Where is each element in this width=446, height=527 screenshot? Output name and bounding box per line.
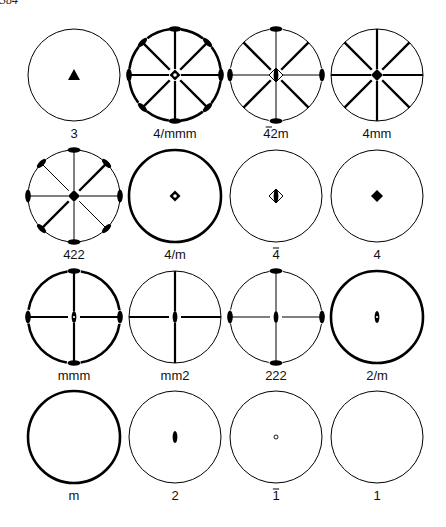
twofold-axis-end-icon xyxy=(169,26,182,32)
inversion-center-icon xyxy=(376,316,378,318)
point-group-label: 422 xyxy=(63,247,85,262)
twofold-axis-end-icon xyxy=(227,69,233,82)
primitive-circle xyxy=(28,391,120,483)
stereogram-4-m: 4/m xyxy=(129,150,221,262)
twofold-axis-end-icon xyxy=(169,118,182,124)
point-group-label: 1 xyxy=(373,488,380,503)
inversion-center-icon xyxy=(274,435,278,439)
diagonal-line xyxy=(79,163,106,190)
twofold-axis-end-icon xyxy=(68,360,81,366)
stereogram-42m: 42m xyxy=(227,26,325,141)
diagonal-line xyxy=(41,163,68,190)
stereogram-222: 222 xyxy=(227,268,325,383)
twofold-axis-icon xyxy=(173,311,178,323)
diagonal-line xyxy=(243,80,270,107)
twofold-axis-end-icon xyxy=(270,360,283,366)
diagonal-line xyxy=(243,42,270,69)
point-group-label: mmm xyxy=(58,368,91,383)
diagonal-line xyxy=(382,42,409,69)
stereogram-2-m: 2/m xyxy=(331,271,423,383)
point-group-label: mm2 xyxy=(161,368,190,383)
twofold-axis-end-icon xyxy=(319,311,325,324)
diagonal-line xyxy=(344,80,371,107)
stereogram-4: 4 xyxy=(230,150,322,262)
twofold-axis-end-icon xyxy=(117,190,123,203)
stereogram-mm2: mm2 xyxy=(129,271,221,383)
twofold-axis-end-icon xyxy=(270,118,283,124)
stereogram-mmm: mmm xyxy=(25,268,123,383)
stereogram-4: 4 xyxy=(331,150,423,262)
twofold-axis-end-icon xyxy=(126,69,132,82)
point-group-label: m xyxy=(69,488,80,503)
stereogram-4mm: 4mm xyxy=(331,29,423,141)
point-group-label: 222 xyxy=(265,368,287,383)
point-group-label: 3 xyxy=(70,126,77,141)
twofold-axis-end-icon xyxy=(25,311,31,324)
twofold-axis-end-icon xyxy=(68,239,81,245)
point-group-label: 1 xyxy=(272,488,279,503)
fourfold-axis-icon xyxy=(371,69,383,81)
twofold-axis-end-icon xyxy=(117,311,123,324)
twofold-axis-icon xyxy=(173,431,178,443)
point-group-label: 2/m xyxy=(366,368,388,383)
inversion-center-icon xyxy=(173,194,177,198)
diagonal-line xyxy=(79,201,106,228)
diagonal-line xyxy=(180,42,207,69)
fourfold-axis-icon xyxy=(371,190,383,202)
stereogram-m: m xyxy=(28,391,120,503)
diagonal-line xyxy=(281,80,308,107)
twofold-axis-end-icon xyxy=(68,268,81,274)
stereogram-4-mmm: 4/mmm xyxy=(126,26,224,141)
threefold-axis-icon xyxy=(68,69,80,80)
twofold-inner-icon xyxy=(274,189,279,203)
twofold-axis-end-icon xyxy=(270,26,283,32)
fourfold-axis-icon xyxy=(68,190,80,202)
point-group-label: 4 xyxy=(373,247,380,262)
point-group-label: 4/m xyxy=(164,247,186,262)
inversion-center-icon xyxy=(73,316,75,318)
stereogram-1: 1 xyxy=(331,391,423,503)
twofold-axis-icon xyxy=(274,311,279,323)
stereogram-2: 2 xyxy=(129,391,221,503)
twofold-axis-end-icon xyxy=(319,69,325,82)
diagonal-line xyxy=(142,42,169,69)
point-group-stereograms: 34/mmm42m4mm4224/m44mmmmm22222/mm211 xyxy=(0,0,446,527)
stereogram-422: 422 xyxy=(25,147,123,262)
twofold-inner-icon xyxy=(274,68,279,82)
twofold-axis-end-icon xyxy=(68,147,81,153)
diagonal-line xyxy=(382,80,409,107)
diagonal-line xyxy=(180,80,207,107)
twofold-axis-end-icon xyxy=(270,268,283,274)
twofold-axis-end-icon xyxy=(227,311,233,324)
point-group-label: 4mm xyxy=(363,126,392,141)
stereogram-3: 3 xyxy=(28,29,120,141)
diagonal-line xyxy=(344,42,371,69)
stereogram-1: 1 xyxy=(230,391,322,503)
twofold-axis-end-icon xyxy=(218,69,224,82)
diagonal-line xyxy=(142,80,169,107)
point-group-label: 4/mmm xyxy=(153,126,196,141)
diagonal-line xyxy=(281,42,308,69)
inversion-center-icon xyxy=(173,73,177,77)
point-group-label: 2 xyxy=(171,488,178,503)
point-group-label: 42m xyxy=(263,126,288,141)
point-group-label: 4 xyxy=(272,247,279,262)
diagonal-line xyxy=(41,201,68,228)
primitive-circle xyxy=(331,391,423,483)
twofold-axis-end-icon xyxy=(25,190,31,203)
